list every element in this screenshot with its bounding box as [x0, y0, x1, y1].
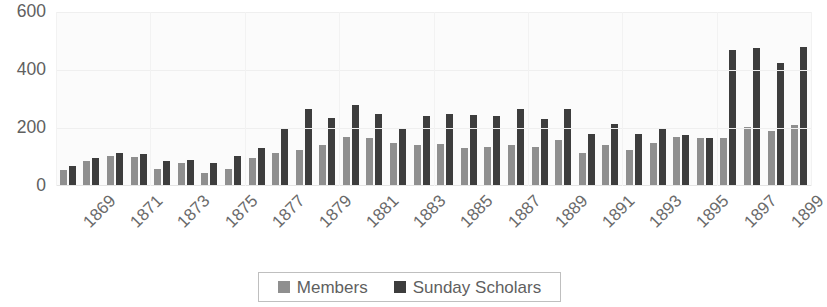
bar-members[interactable]: [697, 138, 704, 186]
bar-members[interactable]: [744, 127, 751, 186]
gridline-vertical: [528, 12, 529, 186]
bar-members[interactable]: [768, 131, 775, 186]
bar-sunday-scholars[interactable]: [258, 148, 265, 186]
bar-members[interactable]: [720, 138, 727, 186]
bar-group: [461, 12, 479, 186]
bar-sunday-scholars[interactable]: [493, 116, 500, 186]
bar-sunday-scholars[interactable]: [399, 128, 406, 186]
bar-group: [343, 12, 361, 186]
bar-sunday-scholars[interactable]: [305, 109, 312, 186]
bar-members[interactable]: [343, 137, 350, 186]
x-axis-tick-label: 1897: [741, 192, 780, 231]
bar-sunday-scholars[interactable]: [281, 128, 288, 186]
x-axis-tick-label: 1875: [222, 192, 261, 231]
bar-group: [107, 12, 125, 186]
bar-members[interactable]: [272, 153, 279, 186]
bar-sunday-scholars[interactable]: [375, 114, 382, 187]
bar-group: [650, 12, 668, 186]
legend-item-sunday-scholars[interactable]: Sunday Scholars: [394, 279, 542, 296]
gridline-vertical: [622, 12, 623, 186]
bar-members[interactable]: [555, 140, 562, 186]
bar-sunday-scholars[interactable]: [69, 166, 76, 186]
bar-group: [131, 12, 149, 186]
bar-group: [532, 12, 550, 186]
bar-sunday-scholars[interactable]: [163, 161, 170, 186]
bar-members[interactable]: [791, 125, 798, 186]
bar-group: [508, 12, 526, 186]
bar-sunday-scholars[interactable]: [210, 163, 217, 186]
bar-sunday-scholars[interactable]: [541, 119, 548, 186]
bar-sunday-scholars[interactable]: [800, 47, 807, 186]
bar-sunday-scholars[interactable]: [682, 135, 689, 186]
bar-members[interactable]: [178, 163, 185, 186]
bar-members[interactable]: [461, 148, 468, 186]
square-swatch-icon: [394, 281, 406, 293]
bar-group: [626, 12, 644, 186]
bar-sunday-scholars[interactable]: [187, 160, 194, 186]
bar-members[interactable]: [154, 169, 161, 186]
bar-members[interactable]: [366, 138, 373, 186]
bar-members[interactable]: [390, 143, 397, 187]
bar-members[interactable]: [83, 161, 90, 186]
bar-sunday-scholars[interactable]: [611, 124, 618, 186]
bar-members[interactable]: [131, 157, 138, 186]
bar-group: [154, 12, 172, 186]
bar-sunday-scholars[interactable]: [659, 128, 666, 186]
x-axis-tick-label: 1893: [646, 192, 685, 231]
bar-group: [414, 12, 432, 186]
x-axis-tick-label: 1899: [788, 192, 827, 231]
bar-members[interactable]: [296, 150, 303, 186]
bar-sunday-scholars[interactable]: [92, 158, 99, 186]
bar-sunday-scholars[interactable]: [635, 134, 642, 186]
bar-members[interactable]: [602, 145, 609, 186]
x-axis: 1869187118731875187718791881188318851887…: [56, 188, 811, 258]
bar-sunday-scholars[interactable]: [234, 156, 241, 186]
bar-group: [744, 12, 762, 186]
bar-members[interactable]: [673, 137, 680, 186]
bar-sunday-scholars[interactable]: [423, 116, 430, 186]
bar-members[interactable]: [508, 145, 515, 186]
x-axis-tick-label: 1895: [693, 192, 732, 231]
bar-group: [768, 12, 786, 186]
bar-sunday-scholars[interactable]: [140, 154, 147, 186]
bar-members[interactable]: [414, 145, 421, 186]
bar-sunday-scholars[interactable]: [470, 115, 477, 186]
bar-group: [366, 12, 384, 186]
bar-members[interactable]: [107, 156, 114, 186]
x-axis-tick-label: 1883: [410, 192, 449, 231]
gridline-vertical: [56, 12, 57, 186]
bar-members[interactable]: [60, 170, 67, 186]
bar-sunday-scholars[interactable]: [352, 105, 359, 186]
bar-sunday-scholars[interactable]: [706, 138, 713, 186]
bar-members[interactable]: [650, 143, 657, 187]
bar-sunday-scholars[interactable]: [517, 109, 524, 186]
bar-sunday-scholars[interactable]: [753, 48, 760, 186]
bar-members[interactable]: [249, 158, 256, 186]
bar-members[interactable]: [225, 169, 232, 186]
gridline-vertical: [717, 12, 718, 186]
x-axis-tick-label: 1871: [127, 192, 166, 231]
bar-group: [697, 12, 715, 186]
gridline-vertical: [811, 12, 812, 186]
bar-members[interactable]: [532, 147, 539, 186]
bar-sunday-scholars[interactable]: [588, 134, 595, 186]
bar-sunday-scholars[interactable]: [777, 63, 784, 186]
legend-item-members[interactable]: Members: [278, 279, 368, 296]
bar-members[interactable]: [626, 150, 633, 186]
bar-members[interactable]: [437, 144, 444, 186]
bar-members[interactable]: [579, 153, 586, 186]
bar-members[interactable]: [484, 147, 491, 186]
bar-group: [437, 12, 455, 186]
y-axis-tick-label: 0: [36, 177, 46, 195]
bar-group: [319, 12, 337, 186]
bar-sunday-scholars[interactable]: [446, 114, 453, 187]
bar-group: [178, 12, 196, 186]
y-axis-tick-label: 600: [17, 3, 46, 21]
bar-sunday-scholars[interactable]: [116, 153, 123, 186]
gridline-vertical: [245, 12, 246, 186]
bar-sunday-scholars[interactable]: [564, 109, 571, 186]
bar-members[interactable]: [319, 145, 326, 186]
bar-group: [272, 12, 290, 186]
square-swatch-icon: [278, 281, 290, 293]
